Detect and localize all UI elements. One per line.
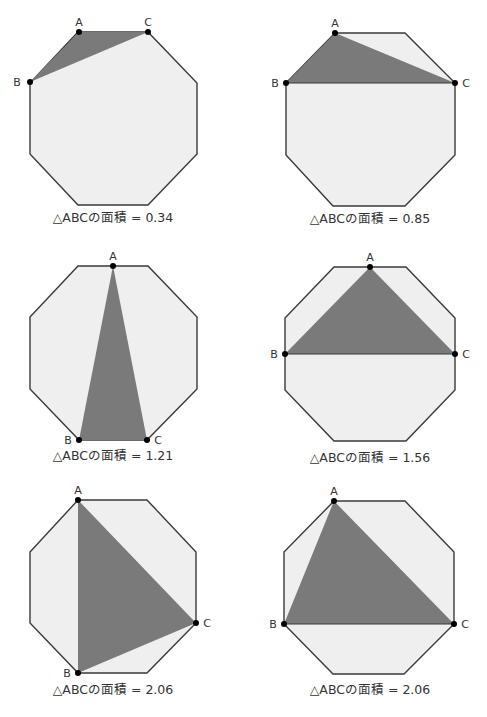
point-a <box>76 29 82 35</box>
point-c <box>144 437 150 443</box>
label-c: C <box>154 434 162 447</box>
label-b: B <box>271 77 279 90</box>
panel-4: A B C △ABCの面積 = 1.56 <box>270 251 470 465</box>
point-b <box>27 79 33 85</box>
label-a: A <box>330 485 338 498</box>
octagon-triangle-figure: A B C △ABCの面積 = 0.34 A B C △ABCの面積 = 0.8… <box>0 0 487 717</box>
panel-1: A B C △ABCの面積 = 0.34 <box>13 16 197 225</box>
point-b <box>282 351 288 357</box>
panel-2: A B C △ABCの面積 = 0.85 <box>271 17 470 226</box>
area-caption: △ABCの面積 = 1.21 <box>53 448 174 463</box>
point-a <box>332 30 338 36</box>
label-a: A <box>75 16 83 29</box>
point-b <box>281 621 287 627</box>
point-a <box>110 263 116 269</box>
point-b <box>283 80 289 86</box>
label-a: A <box>109 250 117 263</box>
label-b: B <box>64 434 72 447</box>
label-b: B <box>270 348 278 361</box>
point-c <box>451 621 457 627</box>
label-b: B <box>269 618 277 631</box>
area-caption: △ABCの面積 = 0.85 <box>310 211 431 226</box>
point-a <box>331 498 337 504</box>
point-c <box>145 29 151 35</box>
point-a <box>75 497 81 503</box>
area-caption: △ABCの面積 = 2.06 <box>310 682 431 697</box>
point-b <box>76 437 82 443</box>
label-b: B <box>13 76 21 89</box>
label-c: C <box>203 617 211 630</box>
label-c: C <box>462 77 470 90</box>
area-caption: △ABCの面積 = 0.34 <box>53 210 174 225</box>
panel-6: A B C △ABCの面積 = 2.06 <box>269 485 469 697</box>
label-c: C <box>461 618 469 631</box>
label-a: A <box>74 484 82 497</box>
point-a <box>367 264 373 270</box>
area-caption: △ABCの面積 = 1.56 <box>310 450 431 465</box>
point-c <box>452 351 458 357</box>
label-b: B <box>63 667 71 680</box>
label-a: A <box>331 17 339 30</box>
label-a: A <box>366 251 374 264</box>
label-c: C <box>462 348 470 361</box>
label-c: C <box>144 16 152 29</box>
panel-3: A B C △ABCの面積 = 1.21 <box>30 250 197 463</box>
point-b <box>75 670 81 676</box>
panel-5: A B C △ABCの面積 = 2.06 <box>30 484 211 697</box>
point-c <box>193 620 199 626</box>
point-c <box>452 80 458 86</box>
area-caption: △ABCの面積 = 2.06 <box>53 682 174 697</box>
